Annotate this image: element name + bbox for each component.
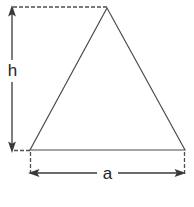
geometry-figure: h a (0, 0, 194, 207)
height-dimension-label: h (3, 61, 22, 82)
base-dimension-label: a (97, 164, 118, 185)
